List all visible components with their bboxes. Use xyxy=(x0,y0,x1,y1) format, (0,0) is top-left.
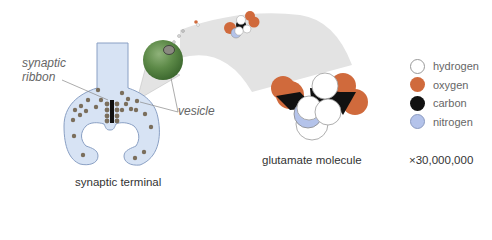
synaptic-ribbon xyxy=(110,100,114,123)
oxygen-swatch-icon xyxy=(410,77,425,92)
synaptic-ribbon-label-1: synaptic xyxy=(22,56,66,70)
large-glutamate-molecule xyxy=(271,73,368,140)
legend-item-hydrogen: hydrogen xyxy=(410,57,479,76)
legend-item-nitrogen: nitrogen xyxy=(410,113,479,132)
legend-label: nitrogen xyxy=(433,116,473,128)
vesicle-leader-line-2 xyxy=(171,78,178,112)
carbon-swatch-icon xyxy=(410,96,425,111)
hydrogen-swatch-icon xyxy=(410,59,425,74)
magnification-label: ×30,000,000 xyxy=(409,154,473,166)
legend-label: oxygen xyxy=(433,79,468,91)
legend-label: hydrogen xyxy=(433,60,479,72)
glutamate-molecule-label: glutamate molecule xyxy=(262,154,362,166)
synaptic-terminal-label: synaptic terminal xyxy=(75,176,161,188)
legend-label: carbon xyxy=(433,97,467,109)
vesicle-opening xyxy=(164,46,175,55)
nitrogen-swatch-icon xyxy=(410,114,425,129)
atom-legend: hydrogen oxygen carbon nitrogen xyxy=(410,57,479,131)
legend-item-carbon: carbon xyxy=(410,94,479,113)
synaptic-ribbon-label-2: ribbon xyxy=(22,70,55,84)
enlarged-vesicle xyxy=(143,40,183,80)
legend-item-oxygen: oxygen xyxy=(410,76,479,95)
vesicle-label: vesicle xyxy=(178,104,215,118)
